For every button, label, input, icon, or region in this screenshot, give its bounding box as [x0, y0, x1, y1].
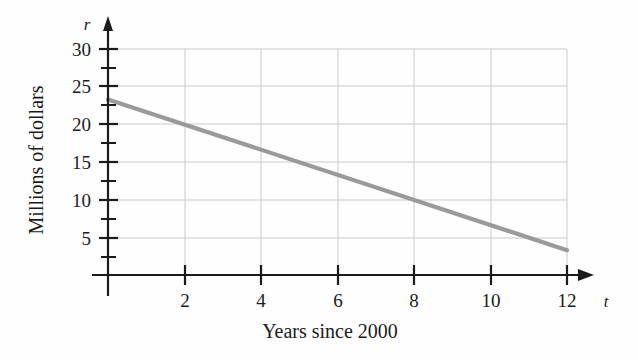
x-tick-label-6: 6 [333, 290, 343, 311]
grid-lines [108, 49, 567, 275]
y-tick-label-15: 15 [72, 152, 91, 173]
chart-figure: 30 25 20 15 10 5 2 4 6 8 10 12 r t Years… [0, 0, 638, 360]
x-tick-label-8: 8 [409, 290, 419, 311]
chart-canvas: 30 25 20 15 10 5 2 4 6 8 10 12 r t Years… [0, 0, 638, 360]
x-tick-label-2: 2 [180, 290, 190, 311]
x-tick-label-4: 4 [256, 290, 266, 311]
y-axis-caption: Millions of dollars [25, 85, 47, 234]
x-tick-label-10: 10 [482, 290, 501, 311]
x-axis-variable-label: t [604, 292, 610, 311]
y-tick-label-20: 20 [72, 114, 91, 135]
y-axis [99, 16, 118, 296]
x-tick-labels: 2 4 6 8 10 12 [180, 290, 576, 311]
x-axis-caption: Years since 2000 [262, 320, 398, 342]
y-tick-label-25: 25 [72, 76, 91, 97]
y-tick-label-5: 5 [82, 228, 92, 249]
y-axis-arrowhead [103, 16, 113, 31]
y-tick-labels: 30 25 20 15 10 5 [72, 39, 91, 249]
y-tick-label-10: 10 [72, 190, 91, 211]
y-axis-variable-label: r [84, 15, 91, 34]
y-tick-label-30: 30 [72, 39, 91, 60]
x-axis [92, 265, 594, 285]
x-tick-label-12: 12 [558, 290, 577, 311]
x-axis-arrowhead [578, 269, 594, 281]
